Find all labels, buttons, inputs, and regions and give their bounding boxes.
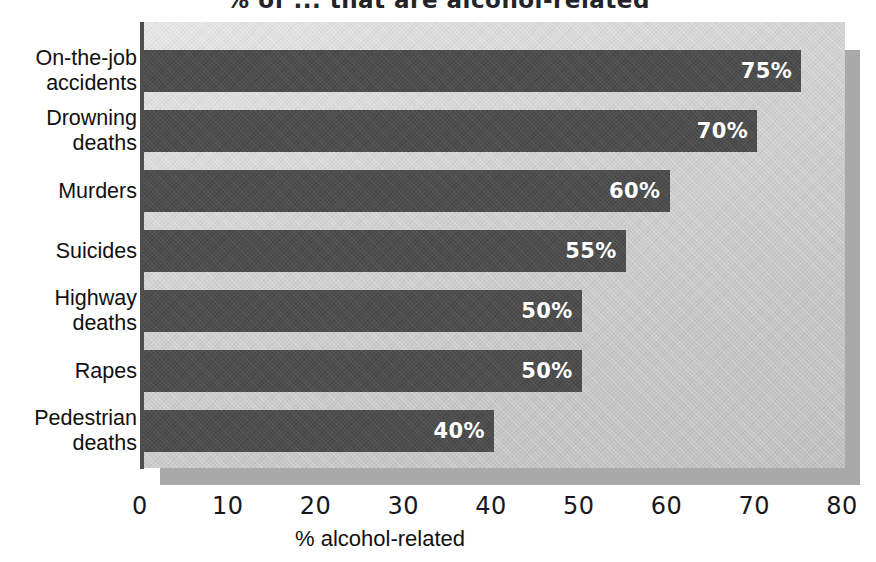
bar-value-label: 50%	[521, 361, 572, 382]
bar-value-label: 40%	[434, 421, 485, 442]
x-axis-label: % alcohol-related	[0, 526, 760, 552]
bar-value-label: 55%	[565, 241, 616, 262]
x-tick-label: 10	[212, 492, 244, 520]
category-label: Suicides	[56, 239, 137, 264]
bar-row: 50%	[143, 350, 582, 392]
bar-value-label: 60%	[609, 181, 660, 202]
x-tick-label: 80	[826, 492, 858, 520]
bar: 70%	[143, 110, 757, 152]
category-label: Murders	[58, 179, 137, 204]
bar: 75%	[143, 50, 801, 92]
category-label: Drowning deaths	[46, 106, 137, 156]
category-label: On-the-job accidents	[35, 46, 137, 96]
x-tick-label: 70	[738, 492, 770, 520]
bar: 40%	[143, 410, 494, 452]
x-tick-label: 40	[475, 492, 507, 520]
category-label: Pedestrian deaths	[34, 406, 137, 456]
bar-row: 60%	[143, 170, 670, 212]
bar-row: 40%	[143, 410, 494, 452]
bar: 55%	[143, 230, 626, 272]
x-tick-label: 20	[300, 492, 332, 520]
bar-value-label: 70%	[697, 121, 748, 142]
bar-row: 70%	[143, 110, 757, 152]
bar-value-label: 50%	[521, 301, 572, 322]
bar-row: 55%	[143, 230, 626, 272]
x-tick-label: 50	[563, 492, 595, 520]
category-label: Highway deaths	[55, 286, 137, 336]
category-label: Rapes	[75, 359, 137, 384]
chart-title: % of ... that are alcohol-related	[0, 0, 876, 13]
bar-value-label: 75%	[741, 61, 792, 82]
bar-row: 50%	[143, 290, 582, 332]
x-tick-label: 60	[651, 492, 683, 520]
bar-chart-figure: % of ... that are alcohol-related 75%70%…	[0, 0, 876, 562]
x-tick-label: 30	[387, 492, 419, 520]
bar: 50%	[143, 290, 582, 332]
bar: 50%	[143, 350, 582, 392]
x-tick-label: 0	[132, 492, 148, 520]
bar: 60%	[143, 170, 670, 212]
bar-row: 75%	[143, 50, 801, 92]
